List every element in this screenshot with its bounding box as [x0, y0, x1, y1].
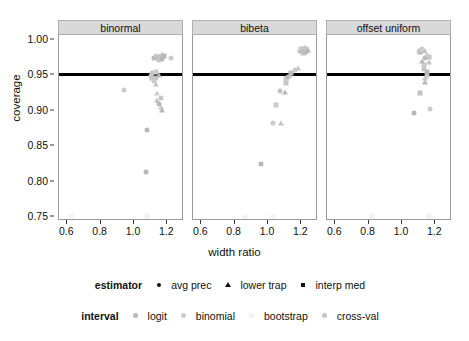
x-tick-mark [368, 220, 369, 224]
facet-plot-area [326, 35, 451, 220]
legend-glyph [133, 313, 138, 318]
data-point [428, 107, 433, 112]
legend-glyph [225, 282, 231, 287]
data-point [411, 110, 416, 115]
data-point [143, 169, 148, 174]
reference-line [59, 73, 182, 76]
data-point [426, 60, 432, 65]
data-point [305, 47, 311, 52]
data-point [271, 215, 276, 220]
legend-label: interp med [316, 279, 366, 291]
legend-estimator: estimatoravg preclower trapinterp med [0, 277, 469, 292]
y-tick-mark [50, 216, 54, 217]
y-tick-mark [50, 145, 54, 146]
facet-strip-label: bibeta [192, 20, 317, 35]
x-tick-label: 1.0 [126, 225, 141, 237]
x-tick-mark [166, 220, 167, 224]
data-point [153, 82, 159, 87]
data-point [421, 67, 426, 72]
data-point [426, 214, 431, 219]
data-point [259, 161, 264, 166]
y-tick-label: 0.75 [28, 210, 48, 222]
data-point [145, 127, 150, 132]
y-tick-label: 0.90 [28, 104, 48, 116]
legend-glyph [301, 283, 305, 287]
data-point [162, 54, 167, 59]
data-point [168, 56, 173, 61]
x-axis-title: width ratio [0, 246, 469, 258]
legend-key-swatch-icon [176, 308, 191, 323]
facet-panel: binormal [58, 20, 183, 220]
legend-key-circle-icon [151, 277, 166, 292]
legend-glyph [181, 313, 186, 318]
x-tick-label: 1.0 [260, 225, 275, 237]
legend-key-triangle-icon [220, 277, 235, 292]
x-tick-mark [200, 220, 201, 224]
data-point [242, 215, 247, 220]
chart-canvas: coverage 0.750.800.850.900.951.00 binorm… [0, 0, 469, 341]
x-tick-mark [100, 220, 101, 224]
y-tick-label: 1.00 [28, 33, 48, 45]
legend-label: bootstrap [264, 310, 308, 322]
legend-item[interactable]: avg prec [151, 277, 211, 292]
x-tick-label: 0.8 [92, 225, 107, 237]
facet-plot-area [192, 35, 317, 220]
legend-glyph [157, 283, 161, 287]
y-tick-label: 0.95 [28, 68, 48, 80]
data-point [295, 66, 301, 71]
y-tick-label: 0.80 [28, 175, 48, 187]
data-point [420, 46, 425, 51]
legend-item[interactable]: bootstrap [244, 308, 308, 323]
reference-line [193, 73, 316, 76]
data-point [282, 89, 288, 94]
data-point [271, 121, 276, 126]
facet-strip-label: offset uniform [326, 20, 451, 35]
legend-item[interactable]: lower trap [220, 277, 286, 292]
data-point [156, 72, 162, 77]
data-point [159, 107, 165, 112]
facet-strip-label: binormal [58, 20, 183, 35]
legend-glyph [249, 313, 254, 318]
x-tick-label: 1.2 [293, 225, 308, 237]
legend-label: lower trap [240, 279, 286, 291]
legend-key-swatch-icon [317, 308, 332, 323]
legend-key-swatch-icon [128, 308, 143, 323]
data-point [418, 90, 423, 95]
x-tick-mark [133, 220, 134, 224]
data-point [274, 103, 279, 108]
x-tick-mark [401, 220, 402, 224]
x-tick-label: 0.6 [193, 225, 208, 237]
legend-title: estimator [95, 279, 142, 291]
data-point [278, 120, 284, 125]
x-tick-label: 1.2 [159, 225, 174, 237]
legend-key-swatch-icon [244, 308, 259, 323]
x-tick-mark [300, 220, 301, 224]
reference-line [327, 73, 450, 76]
legend-item[interactable]: logit [128, 308, 167, 323]
x-tick-mark [434, 220, 435, 224]
data-point [145, 213, 150, 218]
data-point [68, 213, 73, 218]
facet-plot-area [58, 35, 183, 220]
legend-glyph [322, 313, 327, 318]
legend-title: interval [81, 310, 118, 322]
legend-item[interactable]: interp med [296, 277, 366, 292]
legend-item[interactable]: cross-val [317, 308, 379, 323]
legend-label: binomial [196, 310, 235, 322]
legend-label: logit [148, 310, 167, 322]
data-point [370, 214, 375, 219]
y-tick-mark [50, 180, 54, 181]
x-tick-label: 1.2 [427, 225, 442, 237]
legend-label: avg prec [171, 279, 211, 291]
legend-interval: intervallogitbinomialbootstrapcross-val [0, 308, 469, 323]
x-tick-label: 0.6 [327, 225, 342, 237]
data-point [158, 96, 163, 101]
x-tick-mark [267, 220, 268, 224]
y-tick-mark [50, 74, 54, 75]
y-tick-mark [50, 109, 54, 110]
y-tick-mark [50, 38, 54, 39]
legend-item[interactable]: binomial [176, 308, 235, 323]
x-tick-label: 0.8 [360, 225, 375, 237]
x-tick-label: 0.6 [59, 225, 74, 237]
x-tick-mark [234, 220, 235, 224]
